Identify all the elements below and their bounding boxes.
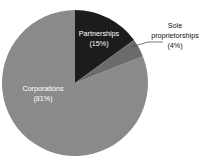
label-corporations-percent: (81%)	[33, 94, 52, 103]
label-sole-proprietorships-line1: Sole	[168, 21, 182, 30]
label-sole-proprietorships-line2: proprietorships	[151, 31, 199, 40]
pie-chart-svg: Partnerships (15%) Corporations (81%) So…	[0, 0, 206, 166]
label-partnerships-name: Partnerships	[79, 29, 120, 38]
label-partnerships-percent: (15%)	[89, 39, 108, 48]
pie-chart-figure: Partnerships (15%) Corporations (81%) So…	[0, 0, 206, 166]
label-sole-proprietorships-percent: (4%)	[167, 41, 182, 50]
label-corporations-name: Corporations	[22, 84, 64, 93]
